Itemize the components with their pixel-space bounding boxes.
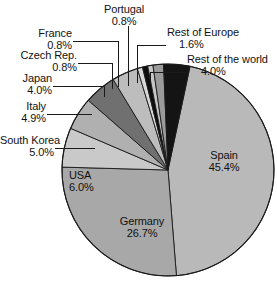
slice-label-portugal: Portugal 0.8% xyxy=(88,4,160,27)
slice-label-japan-name: Japan xyxy=(0,73,52,85)
slice-label-italy-pct: 4.9% xyxy=(0,113,46,125)
slice-label-usa-pct: 6.0% xyxy=(69,182,113,194)
slice-label-rest-of-europe-name: Rest of Europe xyxy=(167,27,277,39)
slice-label-germany-name: Germany xyxy=(105,216,179,228)
slice-label-france: France 0.8% xyxy=(0,28,72,51)
slice-label-japan: Japan 4.0% xyxy=(0,73,52,96)
slice-label-germany-pct: 26.7% xyxy=(105,228,179,240)
slice-label-rest-of-the-world-name: Rest of the world xyxy=(187,54,277,66)
slice-label-rest-of-europe-pct: 1.6% xyxy=(167,39,277,51)
slice-label-spain-pct: 45.4% xyxy=(195,162,253,174)
slice-label-rest-of-europe: Rest of Europe 1.6% xyxy=(167,27,277,50)
slice-label-south-korea: South Korea 5.0% xyxy=(0,135,54,158)
slice-label-usa: USA 6.0% xyxy=(69,170,113,193)
slice-label-rest-of-the-world: Rest of the world 4.0% xyxy=(187,54,277,77)
slice-label-portugal-pct: 0.8% xyxy=(88,16,160,28)
slice-label-rest-of-the-world-pct: 4.0% xyxy=(187,66,277,78)
slice-label-south-korea-name: South Korea xyxy=(0,135,54,147)
slice-label-spain: Spain 45.4% xyxy=(195,150,253,173)
slice-label-italy-name: Italy xyxy=(0,101,46,113)
slice-label-czech-name: Czech Rep. xyxy=(0,50,77,62)
slice-label-japan-pct: 4.0% xyxy=(0,85,52,97)
pie-chart-figure: Portugal 0.8% France 0.8% Czech Rep. 0.8… xyxy=(0,0,277,283)
slice-label-spain-name: Spain xyxy=(195,150,253,162)
slice-label-usa-name: USA xyxy=(69,170,113,182)
slice-label-germany: Germany 26.7% xyxy=(105,216,179,239)
slice-label-portugal-name: Portugal xyxy=(88,4,160,16)
slice-label-czech: Czech Rep. 0.8% xyxy=(0,50,77,73)
slice-label-south-korea-pct: 5.0% xyxy=(0,147,54,159)
slice-label-italy: Italy 4.9% xyxy=(0,101,46,124)
slice-label-france-name: France xyxy=(0,28,72,40)
